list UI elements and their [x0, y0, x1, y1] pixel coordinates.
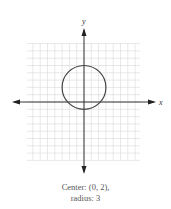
caption-line-1: Center: (0, 2), [0, 182, 171, 192]
coordinate-plane: x y [0, 0, 171, 209]
x-axis-left-arrow-icon [12, 100, 20, 105]
y-axis: y [81, 17, 87, 174]
y-axis-top-arrow-icon [82, 28, 87, 36]
x-axis-right-arrow-icon [148, 100, 156, 105]
caption-line-2: radius: 3 [0, 193, 171, 203]
y-axis-bottom-arrow-icon [82, 166, 87, 174]
x-axis-label: x [158, 98, 163, 107]
x-axis: x [12, 98, 163, 107]
y-axis-label: y [81, 17, 86, 26]
